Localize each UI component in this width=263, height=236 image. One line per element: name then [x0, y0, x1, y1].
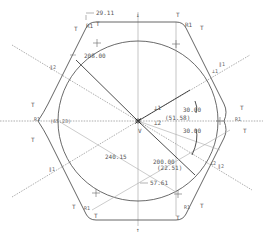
diagonal-centerline-up — [12, 45, 138, 121]
cross-marker-upper-left — [93, 39, 101, 47]
dim-lower-offset[interactable]: (22.51) — [157, 164, 182, 171]
constraint-perp-center-lower: ⊥2 — [154, 119, 162, 126]
cross-marker-top — [172, 40, 180, 48]
constraint-fillet-top-right: R1 — [185, 21, 193, 28]
constraint-parallel-lower-left: ∥1 — [49, 166, 55, 173]
sketch-canvas[interactable]: ↓ ↑ 29.11 208.00 30.00 30.00 (51.58) 240… — [0, 0, 263, 236]
constraint-tangent-right-lower: T — [243, 127, 247, 134]
constraint-parallel-upper-left: ∥2 — [50, 64, 56, 71]
dim-top-chamfer[interactable]: 29.11 — [96, 9, 114, 16]
constraint-tangent-bottom-right-a: T — [200, 202, 204, 209]
constraint-perp-center-upper: ⊥1 — [154, 104, 162, 111]
constraint-fillet-top-left: R1 — [86, 22, 94, 29]
axis-mark-bottom: ↑ — [136, 226, 140, 233]
constraint-fillet-bottom-right: R1 — [184, 204, 190, 210]
dim-lower-left[interactable]: 57.61 — [150, 179, 168, 186]
constraint-perp-lower-right: ⊥2 — [210, 160, 216, 166]
constraint-parallel-upper-right: ∥1 — [219, 61, 225, 68]
axis-mark-top: ↓ — [136, 11, 140, 18]
constraint-vertical: V — [138, 127, 142, 134]
constraint-fillet-left: R1 — [34, 116, 40, 122]
constraint-tangent-top-right-b: T — [200, 24, 204, 31]
dim-lower-diag[interactable]: 240.15 — [105, 153, 127, 160]
constraint-fillet-right: R1 — [235, 116, 241, 122]
constraint-fillet-bottom-left: R1 — [84, 205, 90, 211]
dim-vertical-lower[interactable]: 30.00 — [183, 127, 201, 134]
center-point[interactable] — [135, 118, 141, 124]
dim-radius[interactable]: 208.00 — [84, 52, 106, 59]
constraint-tangent-top-right-a: T — [176, 11, 180, 18]
cross-marker-lower-left — [92, 189, 100, 197]
dim-vertical-upper[interactable]: 30.00 — [183, 106, 201, 113]
constraint-tangent-bottom-right-b: T — [176, 214, 180, 221]
constraint-parallel-lower-right: ∥2 — [218, 163, 224, 170]
lower-dim-line — [138, 121, 220, 150]
constraint-tangent-right-upper: T — [240, 104, 244, 111]
constraint-tangent-left-lower: T — [31, 136, 35, 143]
radius-dimension-line — [76, 60, 138, 121]
dim-left-ref[interactable]: (65.23) — [50, 118, 71, 124]
dim-horizontal-center[interactable]: (51.58) — [165, 114, 190, 121]
cross-marker-right — [216, 117, 224, 125]
constraint-tangent-top-left: T — [74, 25, 78, 32]
constraint-tangent-bottom-left-b: T — [94, 212, 98, 219]
constraint-tangent-bottom-left-a: T — [72, 203, 76, 210]
constraint-tangent-left-upper: T — [31, 101, 35, 108]
constraint-tangent-top: T — [96, 20, 100, 27]
constraint-perp-upper-right: ⊥1 — [212, 68, 218, 74]
